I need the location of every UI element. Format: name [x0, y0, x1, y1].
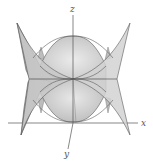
z-axis-label: z	[69, 4, 75, 14]
x-axis-label: x	[141, 118, 146, 128]
y-axis-label: y	[63, 149, 70, 159]
y-axis	[68, 123, 73, 149]
surface-plot: z x y	[0, 0, 153, 166]
